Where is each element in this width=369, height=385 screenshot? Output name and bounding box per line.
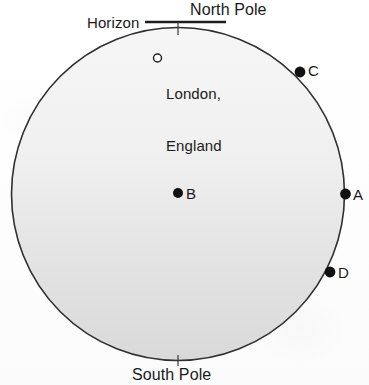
point-a-marker — [340, 189, 351, 200]
point-a-label: A — [353, 186, 363, 203]
london-label-line2: England — [166, 137, 222, 154]
horizon-label: Horizon — [87, 14, 139, 31]
london-label: London, England — [166, 50, 222, 189]
point-c-label: C — [308, 62, 319, 79]
figure-canvas: North Pole Horizon South Pole London, En… — [0, 0, 369, 385]
point-c-marker — [295, 67, 306, 78]
london-marker — [154, 54, 162, 62]
point-d-label: D — [338, 264, 349, 281]
south-pole-label: South Pole — [132, 366, 211, 385]
london-label-line1: London, — [166, 85, 222, 102]
north-pole-label: North Pole — [190, 1, 267, 20]
point-d-marker — [325, 267, 336, 278]
point-b-marker — [173, 188, 183, 198]
point-b-label: B — [186, 185, 196, 202]
